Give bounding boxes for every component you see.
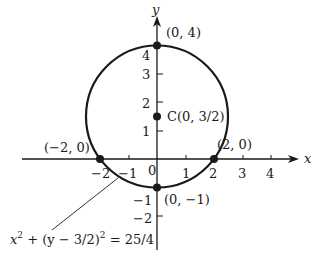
- point-0-neg1: [153, 184, 161, 192]
- y-axis-label: y: [151, 2, 160, 17]
- point-label-neg2-0: (−2, 0): [44, 140, 90, 155]
- diagram-canvas: y x −2 −1 0 1 2 3 4 −2 −1 1 2 3 4 (0, 4)…: [0, 0, 323, 262]
- y-tick-label: 3: [142, 67, 150, 82]
- y-tick-label: −1: [133, 193, 152, 208]
- point-2-0: [210, 155, 218, 163]
- point-label-2-0: (2, 0): [217, 137, 252, 152]
- x-tick-label: −2: [91, 166, 110, 181]
- y-tick-label: 4: [142, 48, 150, 63]
- x-tick-label: 3: [238, 166, 246, 181]
- point-center: [153, 113, 161, 121]
- x-tick-label: 1: [182, 166, 190, 181]
- circle-diagram: y x −2 −1 0 1 2 3 4 −2 −1 1 2 3 4 (0, 4)…: [0, 0, 323, 262]
- y-axis: [153, 16, 161, 250]
- equation-leader-line: [52, 178, 118, 230]
- y-tick-label: 1: [142, 124, 150, 139]
- point-label-0-4: (0, 4): [166, 25, 201, 40]
- y-ticks: [157, 74, 163, 216]
- x-axis: [22, 155, 299, 163]
- x-tick-label: 0: [148, 163, 156, 178]
- point-0-4: [153, 42, 161, 50]
- point-neg2-0: [96, 155, 104, 163]
- x-axis-label: x: [304, 151, 312, 166]
- y-tick-label: −2: [133, 211, 152, 226]
- circle-equation: x2 + (y − 3/2)2 = 25/4: [10, 230, 154, 247]
- point-label-center: C(0, 3/2): [167, 109, 225, 124]
- x-tick-label: 2: [209, 166, 217, 181]
- y-tick-label: 2: [142, 96, 150, 111]
- x-tick-label: 4: [266, 166, 274, 181]
- x-tick-label: −1: [118, 166, 137, 181]
- point-label-0-neg1: (0, −1): [164, 192, 210, 207]
